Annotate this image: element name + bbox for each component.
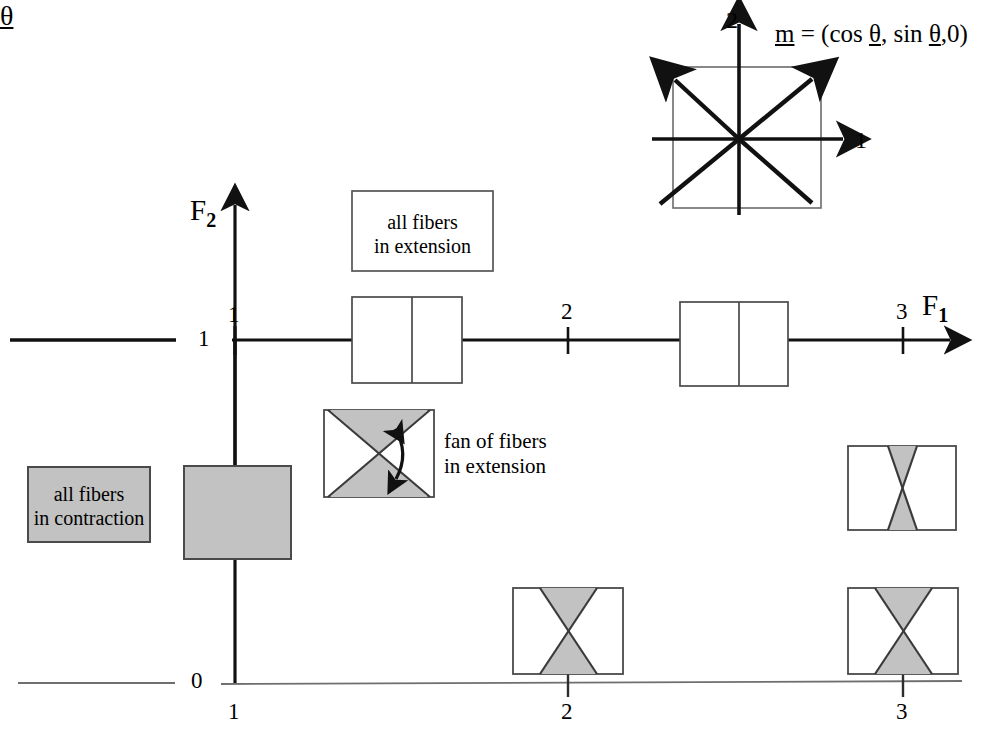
formula-theta-2: θ	[929, 20, 941, 47]
y-axis-title-base: F	[190, 194, 206, 226]
upper-x-tick-label-2: 2	[561, 300, 573, 323]
lower-x-tick-label-3: 3	[896, 700, 908, 723]
formula-part-3: ,0)	[941, 20, 968, 47]
state-icon-contraction-1-1	[184, 466, 291, 559]
legend-all-contraction-line2: in contraction	[26, 507, 152, 531]
state-icon-fan-3-0	[848, 588, 958, 674]
formula-theta-1: θ	[869, 20, 881, 47]
x-axis-title: F1	[922, 291, 948, 325]
inset-fiber-downright	[739, 139, 812, 203]
x-axis-title-sub: 1	[938, 304, 948, 326]
state-icon-extension-1p5-1	[352, 297, 462, 383]
formula-part-2: , sin	[881, 20, 929, 47]
legend-label-all-contraction: all fibers in contraction	[26, 483, 152, 530]
y-axis-title: F2	[190, 196, 216, 230]
legend-all-extension-line2: in extension	[352, 235, 493, 259]
state-icon-extension-2p5-1	[680, 302, 788, 386]
inset-fiber-upleft	[675, 80, 739, 139]
legend-all-contraction-line1: all fibers	[26, 483, 152, 507]
diagram-canvas	[0, 0, 994, 745]
state-icon-fan-3-0p5	[848, 446, 956, 530]
upper-horizontal-axis	[10, 326, 950, 355]
lower-horizontal-axis	[18, 670, 962, 697]
formula-m-symbol: m	[775, 20, 794, 47]
lower-axis-line	[221, 681, 962, 684]
state-icon-fan-legend	[324, 410, 434, 497]
inset-fiber-downleft	[660, 139, 739, 204]
annotation-fan-line2: in extension	[444, 454, 547, 479]
state-icon-fan-2-0	[513, 588, 623, 674]
lower-x-tick-label-1: 1	[228, 700, 240, 723]
lower-x-tick-label-2: 2	[561, 700, 573, 723]
upper-x-tick-label-1: 1	[228, 303, 240, 326]
x-axis-title-base: F	[922, 289, 938, 321]
legend-label-all-extension: all fibers in extension	[352, 211, 493, 258]
y-tick-label-0: 0	[191, 669, 203, 692]
formula-part-1: = (cos	[794, 20, 869, 47]
y-axis-title-sub: 2	[206, 209, 216, 231]
annotation-fan-of-fibers: fan of fibers in extension	[444, 429, 547, 479]
annotation-fan-line1: fan of fibers	[444, 429, 547, 454]
legend-all-extension-line1: all fibers	[352, 211, 493, 235]
fiber-state-diagram: 2 1 θ m = (cos θ, sin θ,0) F2 F1 1 0 1 2…	[0, 0, 994, 745]
upper-x-tick-label-3: 3	[896, 300, 908, 323]
fiber-direction-formula: m = (cos θ, sin θ,0)	[775, 20, 968, 48]
inset-fiber-upright	[739, 79, 812, 139]
orientation-inset	[652, 24, 843, 215]
inset-axis-2-label: 2	[726, 8, 738, 32]
inset-axis-1-label: 1	[855, 128, 867, 152]
y-tick-label-1: 1	[198, 327, 210, 350]
